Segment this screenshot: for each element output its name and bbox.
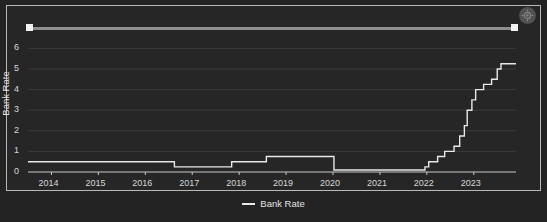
- legend-swatch-bank-rate: [242, 203, 255, 205]
- y-tick-label-0: 0: [14, 166, 19, 176]
- bank-rate-chart-widget: Bank Rate 0123456 2014201520162017201820…: [0, 0, 547, 222]
- gear-icon[interactable]: [519, 7, 536, 24]
- x-tick-label-2017: 2017: [179, 178, 199, 188]
- x-tick-label-2020: 2020: [320, 178, 340, 188]
- x-tick-label-2021: 2021: [367, 178, 387, 188]
- y-tick-label-5: 5: [14, 63, 19, 73]
- x-tick-label-2018: 2018: [226, 178, 246, 188]
- time-range-slider[interactable]: [28, 25, 516, 31]
- y-tick-label-1: 1: [14, 145, 19, 155]
- x-tick-label-2016: 2016: [132, 178, 152, 188]
- range-slider-right-handle[interactable]: [511, 24, 518, 31]
- series-bank-rate: [28, 64, 516, 170]
- gear-icon-glyph: [519, 7, 536, 24]
- chart-plot-area: [0, 0, 547, 222]
- y-tick-label-2: 2: [14, 125, 19, 135]
- y-tick-label-4: 4: [14, 84, 19, 94]
- range-slider-track[interactable]: [28, 27, 516, 30]
- range-slider-left-handle[interactable]: [26, 24, 33, 31]
- x-tick-label-2015: 2015: [85, 178, 105, 188]
- x-tick-label-2014: 2014: [38, 178, 58, 188]
- y-tick-label-6: 6: [14, 42, 19, 52]
- y-axis-title: Bank Rate: [0, 71, 11, 115]
- x-tick-label-2023: 2023: [461, 178, 481, 188]
- series-line-0: [28, 64, 516, 170]
- y-tick-label-3: 3: [14, 104, 19, 114]
- chart-legend: Bank Rate: [0, 198, 547, 209]
- x-tick-label-2019: 2019: [273, 178, 293, 188]
- gridlines: [28, 48, 516, 151]
- x-tick-label-2022: 2022: [414, 178, 434, 188]
- legend-label-bank-rate: Bank Rate: [260, 198, 304, 209]
